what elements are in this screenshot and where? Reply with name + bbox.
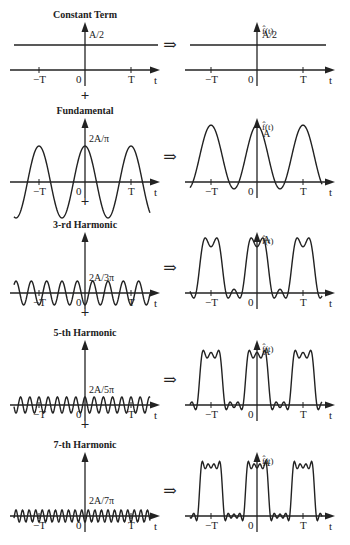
t-axis-arrow-icon bbox=[325, 67, 335, 74]
t-label: t bbox=[154, 297, 157, 309]
t-label: t bbox=[329, 520, 332, 532]
t-label: t bbox=[154, 520, 157, 532]
t-label: t bbox=[329, 297, 332, 309]
t-label: t bbox=[329, 186, 332, 198]
neg-T-label: −T bbox=[33, 296, 46, 308]
t-axis-arrow-icon bbox=[150, 513, 160, 520]
t-label: t bbox=[154, 186, 157, 198]
pos-T-label: T bbox=[300, 519, 307, 531]
result-amplitude-label: A bbox=[263, 346, 271, 357]
partial-sum-plot-2: −T0Ttf̂(t)A bbox=[185, 232, 335, 309]
amplitude-axis-arrow-icon bbox=[254, 452, 261, 462]
row-title: 7-th Harmonic bbox=[53, 439, 117, 450]
partial-sum-plot-1: −T0Ttf̂(t)A bbox=[185, 118, 335, 198]
component-plot-3: 5-th Harmonic−T0Tt2A/5π bbox=[10, 327, 160, 421]
row-title: Constant Term bbox=[53, 9, 118, 20]
pos-T-label: T bbox=[300, 185, 307, 197]
implies-icon: ⇒ bbox=[163, 148, 176, 165]
plus-icon: + bbox=[81, 304, 90, 320]
row-title: Fundamental bbox=[56, 105, 113, 116]
pos-T-label: T bbox=[128, 185, 135, 197]
partial-sum-curve bbox=[190, 238, 322, 298]
t-label: t bbox=[329, 409, 332, 421]
result-amplitude-label: A/2 bbox=[262, 29, 277, 40]
implies-icon: ⇒ bbox=[163, 371, 176, 388]
t-label: t bbox=[154, 409, 157, 421]
implies-icon: ⇒ bbox=[163, 36, 176, 53]
amplitude-label: A/2 bbox=[89, 29, 104, 40]
neg-T-label: −T bbox=[33, 73, 46, 85]
t-axis-arrow-icon bbox=[325, 290, 335, 297]
origin-label: 0 bbox=[248, 73, 254, 85]
result-amplitude-label: A bbox=[263, 234, 271, 245]
amplitude-axis-arrow-icon bbox=[254, 232, 261, 242]
row-title: 3-rd Harmonic bbox=[53, 219, 118, 230]
partial-sum-plot-4: −T0Ttf̂(t)A bbox=[185, 452, 335, 532]
neg-T-label: −T bbox=[205, 408, 218, 420]
pos-T-label: T bbox=[300, 296, 307, 308]
t-axis-arrow-icon bbox=[150, 179, 160, 186]
partial-sum-curve bbox=[190, 125, 322, 189]
partial-sum-curve bbox=[190, 350, 322, 409]
result-amplitude-label: A bbox=[263, 128, 271, 139]
amplitude-label: 2A/3π bbox=[89, 272, 114, 283]
partial-sum-plot-0: −T0Ttf̂(t)A/2 bbox=[185, 22, 335, 86]
neg-T-label: −T bbox=[33, 185, 46, 197]
neg-T-label: −T bbox=[33, 408, 46, 420]
amplitude-label: 2A/5π bbox=[89, 384, 114, 395]
origin-label: 0 bbox=[248, 185, 254, 197]
t-axis-arrow-icon bbox=[150, 402, 160, 409]
amplitude-axis-arrow-icon bbox=[82, 118, 89, 128]
pos-T-label: T bbox=[300, 73, 307, 85]
plus-icon: + bbox=[81, 87, 90, 103]
amplitude-axis-arrow-icon bbox=[82, 232, 89, 242]
neg-T-label: −T bbox=[205, 73, 218, 85]
fourier-series-diagram: Constant Term−T0TtA/2−T0Ttf̂(t)A/2⇒+Fund… bbox=[0, 0, 350, 545]
result-amplitude-label: A bbox=[263, 457, 271, 468]
neg-T-label: −T bbox=[205, 185, 218, 197]
t-axis-arrow-icon bbox=[325, 513, 335, 520]
neg-T-label: −T bbox=[205, 296, 218, 308]
implies-icon: ⇒ bbox=[163, 482, 176, 499]
t-label: t bbox=[154, 74, 157, 86]
t-axis-arrow-icon bbox=[325, 179, 335, 186]
partial-sum-plot-3: −T0Ttf̂(t)A bbox=[185, 340, 335, 421]
origin-label: 0 bbox=[76, 73, 82, 85]
plus-icon: + bbox=[81, 416, 90, 432]
amplitude-axis-arrow-icon bbox=[82, 22, 89, 32]
origin-label: 0 bbox=[248, 296, 254, 308]
amplitude-axis-arrow-icon bbox=[254, 340, 261, 350]
t-label: t bbox=[329, 74, 332, 86]
pos-T-label: T bbox=[128, 73, 135, 85]
plus-icon: + bbox=[81, 193, 90, 209]
t-axis-arrow-icon bbox=[150, 290, 160, 297]
implies-icon: ⇒ bbox=[163, 259, 176, 276]
amplitude-axis-arrow-icon bbox=[82, 452, 89, 462]
partial-sum-curve bbox=[190, 461, 322, 520]
pos-T-label: T bbox=[300, 408, 307, 420]
amplitude-label: 2A/7π bbox=[89, 495, 114, 506]
neg-T-label: −T bbox=[205, 519, 218, 531]
t-axis-arrow-icon bbox=[325, 402, 335, 409]
amplitude-axis-arrow-icon bbox=[82, 340, 89, 350]
amplitude-axis-arrow-icon bbox=[254, 22, 261, 32]
origin-label: 0 bbox=[248, 519, 254, 531]
component-plot-0: Constant Term−T0TtA/2 bbox=[10, 9, 160, 86]
origin-label: 0 bbox=[248, 408, 254, 420]
amplitude-label: 2A/π bbox=[89, 133, 109, 144]
component-plot-2: 3-rd Harmonic−T0Tt2A/3π bbox=[10, 219, 160, 309]
row-title: 5-th Harmonic bbox=[53, 327, 117, 338]
t-axis-arrow-icon bbox=[150, 67, 160, 74]
component-plot-4: 7-th Harmonic−T0Tt2A/7π bbox=[10, 439, 160, 532]
